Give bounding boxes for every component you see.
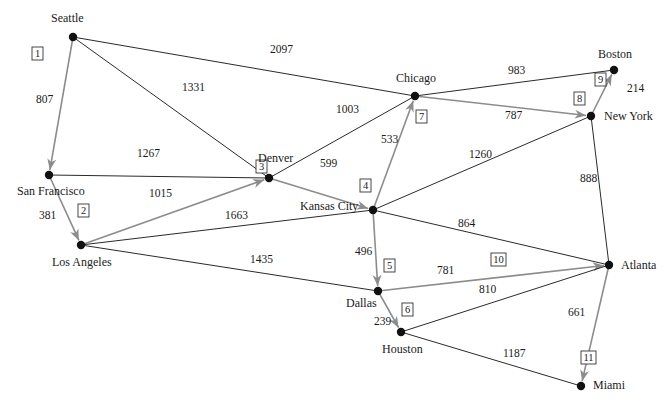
edge-seattle-sanfrancisco (50, 37, 73, 170)
edge-weight-label: 864 (458, 217, 476, 229)
city-label-seattle: Seattle (51, 11, 84, 25)
city-label-losangeles: Los Angeles (52, 255, 112, 269)
visit-order-badge: 10 (491, 253, 506, 266)
node-losangeles (77, 241, 85, 249)
city-label-boston: Boston (598, 47, 632, 61)
edge-weight-label: 1663 (225, 209, 248, 221)
edge-weight-label: 533 (381, 133, 399, 145)
edge-weight-label: 1267 (137, 147, 160, 159)
order-badge-number: 9 (598, 74, 603, 85)
edge-weight-label: 496 (355, 245, 373, 257)
order-badge-number: 2 (81, 205, 86, 216)
node-chicago (411, 92, 419, 100)
visit-order-badge: 11 (581, 351, 596, 364)
city-label-miami: Miami (593, 378, 626, 392)
order-badge-number: 10 (493, 254, 504, 265)
edge-sanfrancisco-denver (49, 175, 269, 178)
node-atlanta (605, 261, 613, 269)
edge-weight-label: 1187 (503, 347, 526, 359)
edge-weight-label: 1003 (336, 103, 359, 115)
edge-atlanta-houston (401, 265, 609, 332)
edge-weight-label: 983 (508, 64, 526, 76)
city-label-chicago: Chicago (396, 71, 436, 85)
city-label-atlanta: Atlanta (621, 258, 657, 272)
city-label-houston: Houston (382, 342, 423, 356)
edge-losangeles-dallas (81, 245, 378, 291)
order-badge-number: 11 (583, 352, 593, 363)
edge-weight-label: 2097 (270, 43, 293, 55)
order-badge-number: 6 (405, 304, 410, 315)
city-label-sanfrancisco: San Francisco (17, 184, 85, 198)
city-label-newyork: New York (604, 109, 653, 123)
edge-houston-miami (401, 332, 581, 386)
order-badge-number: 7 (419, 111, 424, 122)
order-badge-number: 8 (577, 93, 582, 104)
edge-seattle-denver (73, 37, 269, 178)
edge-weight-label: 599 (320, 157, 338, 169)
node-newyork (587, 112, 595, 120)
visit-order-badge: 8 (574, 92, 585, 105)
edge-weight-label: 214 (627, 82, 645, 94)
visit-order-badge: 4 (360, 179, 371, 192)
city-label-dallas: Dallas (346, 296, 377, 310)
edge-weight-label: 787 (505, 109, 523, 121)
city-labels-layer: SeattleSan FranciscoLos AngelesDenverKan… (17, 11, 657, 392)
edge-seattle-chicago (73, 37, 415, 96)
node-houston (397, 328, 405, 336)
edge-weight-label: 1260 (469, 148, 492, 160)
edge-weight-label: 381 (39, 209, 57, 221)
visit-order-badge: 2 (78, 204, 89, 217)
edge-newyork-atlanta (591, 116, 609, 265)
order-badge-number: 1 (35, 48, 40, 59)
edge-weight-label: 239 (374, 315, 392, 327)
visit-order-badge: 6 (402, 303, 413, 316)
visit-order-badge: 5 (384, 259, 395, 272)
node-denver (265, 174, 273, 182)
edge-weight-label: 661 (568, 306, 586, 318)
visit-order-badge: 7 (416, 110, 427, 123)
edge-weight-label: 807 (36, 93, 54, 105)
edge-weight-label: 810 (479, 283, 497, 295)
node-seattle (69, 33, 77, 41)
order-badge-number: 5 (387, 260, 392, 271)
edge-weight-label: 781 (437, 264, 455, 276)
city-graph-diagram: 8073811015599496239533787214781661209713… (0, 0, 666, 405)
edge-weight-label: 1331 (182, 81, 205, 93)
edge-weight-label: 888 (580, 172, 598, 184)
visit-order-badge: 9 (595, 73, 606, 86)
edge-weight-label: 1435 (250, 253, 273, 265)
edge-weight-label: 1015 (149, 187, 172, 199)
edge-kansascity-newyork (373, 116, 591, 210)
edge-kansascity-chicago (373, 101, 413, 210)
node-dallas (374, 287, 382, 295)
city-label-kansascity: Kansas City (300, 199, 358, 213)
order-badge-number: 4 (363, 180, 369, 191)
node-miami (577, 382, 585, 390)
node-boston (610, 66, 618, 74)
node-sanfrancisco (45, 171, 53, 179)
city-label-denver: Denver (258, 151, 293, 165)
node-kansascity (369, 206, 377, 214)
edge-kansascity-dallas (373, 210, 378, 286)
edge-chicago-newyork (415, 96, 586, 115)
visit-order-badge: 1 (32, 47, 43, 60)
